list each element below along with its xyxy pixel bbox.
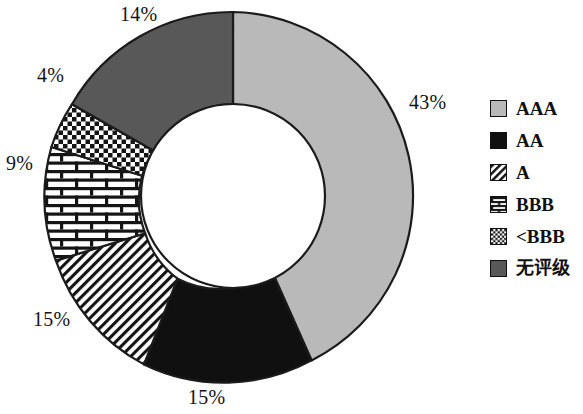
legend-item-a: A [490,156,583,188]
chart-legend: AAA AA A BBB [490,92,583,284]
label-a-percent: 15% [33,308,71,331]
legend-swatch-a-icon [490,164,507,181]
legend-swatch-a-pattern-icon [491,165,506,180]
legend-label-a: A [516,163,530,182]
legend-swatch-lessbbb-pattern-icon [491,229,506,244]
donut-hole [141,104,325,288]
label-no-rating-percent: 14% [120,3,158,26]
legend-label-lessbbb: <BBB [516,227,565,246]
legend-swatch-bbb-icon [490,196,507,213]
legend-label-bbb: BBB [516,195,554,214]
legend-item-aaa: AAA [490,92,583,124]
legend-label-no-rating: 无评级 [516,259,570,277]
donut-chart-figure: 43% 15% 15% 9% 4% 14% AAA AA A [0,0,583,414]
legend-label-aa: AA [516,131,543,150]
label-aa-percent: 15% [188,386,226,409]
legend-swatch-bbb-pattern-icon [491,197,506,212]
legend-item-bbb: BBB [490,188,583,220]
legend-swatch-aaa-icon [490,100,507,117]
legend-label-aaa: AAA [516,99,557,118]
legend-item-no-rating: 无评级 [490,252,583,284]
label-bbb-percent: 9% [6,152,33,175]
label-lessbbb-percent: 4% [37,64,64,87]
label-aaa-percent: 43% [409,91,447,114]
legend-swatch-no-rating-icon [490,260,507,277]
legend-swatch-aa-icon [490,132,507,149]
legend-item-aa: AA [490,124,583,156]
legend-swatch-lessbbb-icon [490,228,507,245]
legend-item-lessbbb: <BBB [490,220,583,252]
